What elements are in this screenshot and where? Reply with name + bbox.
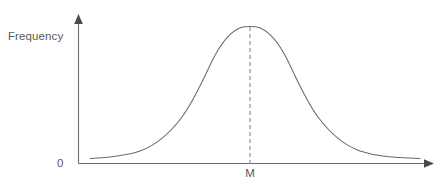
normal-distribution-curve [90,27,420,159]
mean-marker-label: M [245,167,255,179]
y-axis-arrow-icon [74,14,83,24]
x-axis-arrow-icon [424,159,434,168]
origin-label: 0 [57,157,63,169]
chart-canvas: Frequency 0 M [0,0,446,181]
normal-distribution-figure: Frequency 0 M [0,0,446,181]
y-axis-label: Frequency [8,30,63,42]
